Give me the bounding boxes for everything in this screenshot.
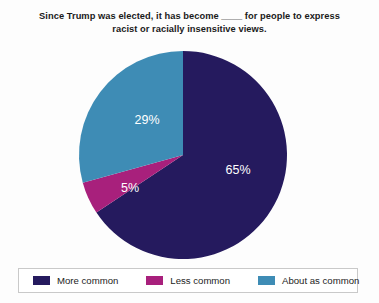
legend-swatch-icon	[146, 276, 163, 285]
pie-plot-area: 65% 29% 5%	[0, 0, 379, 265]
legend-label: Less common	[170, 275, 230, 286]
legend-item-more-common[interactable]: More common	[33, 275, 118, 286]
pie-label-less-common: 5%	[121, 181, 139, 195]
pie-label-about-as-common: 29%	[134, 113, 159, 127]
pie-label-more-common: 65%	[225, 163, 250, 177]
legend-swatch-icon	[33, 276, 50, 285]
legend-item-about-as-common[interactable]: About as common	[258, 275, 359, 286]
chart-legend: More common Less common About as common	[18, 268, 358, 293]
legend-label: More common	[57, 275, 118, 286]
legend-label: About as common	[282, 275, 359, 286]
legend-item-less-common[interactable]: Less common	[146, 275, 230, 286]
pie-chart-card: Since Trump was elected, it has become _…	[0, 0, 379, 303]
legend-swatch-icon	[258, 276, 275, 285]
pie-svg: 65% 29% 5%	[0, 0, 379, 265]
